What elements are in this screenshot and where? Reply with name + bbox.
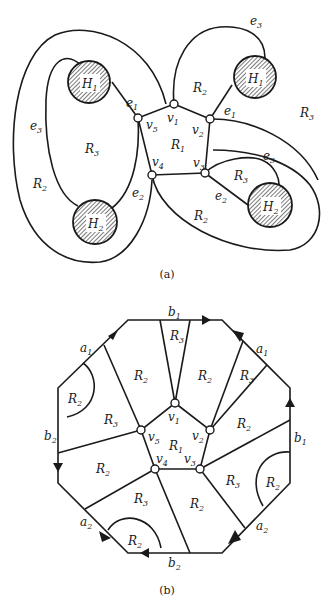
label-r3-b-lowright: R3 (225, 474, 240, 490)
label-r2-b-right: R2 (236, 417, 251, 433)
label-v4-b: v4 (156, 452, 168, 468)
label-v5-a: v5 (146, 118, 158, 134)
caption-b: (b) (159, 584, 175, 597)
label-e1-left: e1 (126, 96, 138, 112)
vertex-v4-b (151, 465, 159, 473)
vertex-v2-b (206, 426, 214, 434)
label-r1-a: R1 (170, 138, 185, 154)
label-r2-b-corner-bl: R2 (127, 534, 142, 550)
label-a2-left: a2 (80, 515, 92, 531)
spoke-v5-b2 (58, 430, 141, 453)
vertex-v1-a (170, 100, 178, 108)
vertex-v3-b (196, 465, 204, 473)
label-r2-b-bottom: R2 (189, 497, 204, 513)
spoke-v3-a2 (200, 469, 245, 528)
label-r2-b-corner-ul: R2 (67, 392, 82, 408)
label-a1-right: a1 (256, 342, 268, 358)
edge-e1-left (112, 82, 138, 118)
label-v5-b: v5 (148, 430, 160, 446)
label-e3-left: e3 (30, 119, 42, 135)
label-e2-left: e2 (132, 186, 144, 202)
edge-v4-lower (152, 150, 320, 250)
label-e2-right: e2 (215, 189, 227, 205)
label-e3-top: e3 (250, 14, 262, 30)
arrow-a2-right (228, 530, 241, 544)
label-v2-a: v2 (192, 123, 204, 139)
label-v4-a: v4 (152, 155, 164, 171)
label-r2-a-left: R2 (32, 177, 47, 193)
label-r2-a-bottom: R2 (193, 209, 208, 225)
label-r3-b-top: R3 (169, 329, 184, 345)
label-r1-b: R1 (168, 439, 183, 455)
label-v2-b: v2 (192, 429, 204, 445)
label-v1-a: v1 (167, 111, 179, 127)
label-r3-a-inner: R3 (233, 169, 248, 185)
label-v3-a: v3 (193, 156, 205, 172)
label-r2-a-top: R2 (192, 81, 207, 97)
label-a2-right: a2 (256, 519, 268, 535)
label-b1-top: b1 (168, 305, 181, 321)
vertex-v4-a (148, 171, 156, 179)
label-v1-b: v1 (168, 410, 180, 426)
spoke-v4-b2 (155, 469, 190, 553)
label-b1-right: b1 (294, 431, 307, 447)
figure-a: H1 H1 H2 H2 v1 v2 v3 v4 v5 e1 e1 e3 e3 e… (13, 14, 319, 281)
label-r2-b-corner-lr: R2 (265, 476, 280, 492)
figure-canvas: H1 H1 H2 H2 v1 v2 v3 v4 v5 e1 e1 e3 e3 e… (0, 0, 332, 601)
label-r3-b-bottom: R3 (133, 492, 148, 508)
vertex-v5-a (134, 114, 142, 122)
label-b2-left: b2 (44, 429, 57, 445)
label-r2-b-left: R2 (95, 462, 110, 478)
vertex-v1-b (171, 399, 179, 407)
label-r2-b-1: R2 (133, 369, 148, 385)
label-v3-b: v3 (184, 452, 196, 468)
label-b2-bottom: b2 (168, 556, 181, 572)
arc-corner-upper-left (67, 363, 94, 417)
label-a1-left: a1 (80, 341, 92, 357)
vertex-v2-a (206, 115, 214, 123)
vertex-v5-b (137, 426, 145, 434)
label-r3-b-right: R3 (239, 369, 254, 385)
label-r3-a-left: R3 (84, 142, 99, 158)
label-r3-a-right: R3 (299, 106, 314, 122)
arrow-b1-right (285, 398, 295, 407)
label-r3-b-left: R3 (103, 413, 118, 429)
caption-a: (a) (159, 268, 174, 281)
arrow-a2-left (99, 531, 111, 542)
arrow-b1-top (202, 315, 211, 325)
arrow-b2-left (53, 463, 63, 472)
label-e3-right: e3 (263, 149, 275, 165)
label-e1-right: e1 (224, 104, 236, 120)
figure-b: v1 v2 v3 v4 v5 b1 a1 a1 b1 b2 a2 a2 b2 R… (44, 305, 307, 597)
label-r2-b-2: R2 (197, 369, 212, 385)
